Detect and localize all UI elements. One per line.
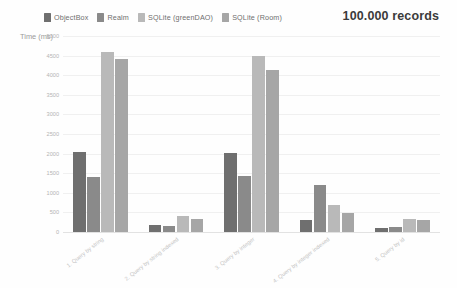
- legend-label-room: SQLite (Room): [232, 13, 282, 22]
- x-tick-label: 3. Query by integer: [213, 236, 255, 271]
- x-label-cell: 2. Query by string indexed: [138, 232, 213, 288]
- bar[interactable]: [252, 56, 265, 232]
- bar[interactable]: [342, 213, 355, 232]
- bar-group: [214, 36, 289, 232]
- legend-item-greendao[interactable]: SQLite (greenDAO): [138, 13, 213, 22]
- bar[interactable]: [73, 152, 86, 232]
- x-axis-labels: 1. Query by string2. Query by string ind…: [63, 232, 440, 288]
- legend-swatch-greendao: [138, 13, 145, 22]
- bar[interactable]: [403, 219, 416, 232]
- chart-legend: ObjectBox Realm SQLite (greenDAO) SQLite…: [44, 11, 282, 23]
- legend-item-objectbox[interactable]: ObjectBox: [44, 13, 88, 22]
- x-label-cell: 4. Query by integer indexed: [289, 232, 364, 288]
- y-tick-label: 4500: [47, 53, 59, 59]
- legend-swatch-objectbox: [44, 13, 51, 22]
- bar[interactable]: [115, 59, 128, 232]
- y-tick-label: 500: [50, 209, 59, 215]
- legend-item-realm[interactable]: Realm: [97, 13, 129, 22]
- bar[interactable]: [149, 225, 162, 232]
- y-tick-label: 1500: [47, 170, 59, 176]
- plot-area: 5000450040003500300025002000150010005000: [63, 36, 440, 232]
- chart-canvas: ObjectBox Realm SQLite (greenDAO) SQLite…: [0, 0, 457, 288]
- x-label-cell: 5. Query by id: [365, 232, 440, 288]
- bar[interactable]: [224, 153, 237, 232]
- legend-label-objectbox: ObjectBox: [54, 13, 88, 22]
- bar[interactable]: [177, 216, 190, 232]
- bar[interactable]: [300, 220, 313, 232]
- legend-item-room[interactable]: SQLite (Room): [222, 13, 282, 22]
- x-tick-label: 5. Query by id: [374, 236, 406, 263]
- y-tick-label: 5000: [47, 33, 59, 39]
- y-tick-label: 4000: [47, 72, 59, 78]
- bar[interactable]: [87, 177, 100, 232]
- bar-group: [63, 36, 138, 232]
- legend-swatch-room: [222, 13, 229, 22]
- bar[interactable]: [191, 219, 204, 232]
- bar-group: [138, 36, 213, 232]
- legend-label-greendao: SQLite (greenDAO): [148, 13, 213, 22]
- bar[interactable]: [266, 70, 279, 232]
- y-tick-label: 1000: [47, 190, 59, 196]
- legend-label-realm: Realm: [107, 13, 129, 22]
- bar-group: [289, 36, 364, 232]
- bar[interactable]: [238, 176, 251, 232]
- bar-groups: [63, 36, 440, 232]
- y-tick-label: 0: [56, 229, 59, 235]
- y-tick-label: 2000: [47, 151, 59, 157]
- x-tick-label: 1. Query by string: [65, 236, 104, 269]
- bar[interactable]: [314, 185, 327, 232]
- legend-swatch-realm: [97, 13, 104, 22]
- bar-group: [365, 36, 440, 232]
- bar[interactable]: [101, 52, 114, 232]
- y-tick-label: 2500: [47, 131, 59, 137]
- bar[interactable]: [417, 220, 430, 232]
- y-tick-label: 3500: [47, 92, 59, 98]
- bar[interactable]: [328, 205, 341, 232]
- y-tick-label: 3000: [47, 111, 59, 117]
- records-count-label: 100.000 records: [343, 9, 439, 23]
